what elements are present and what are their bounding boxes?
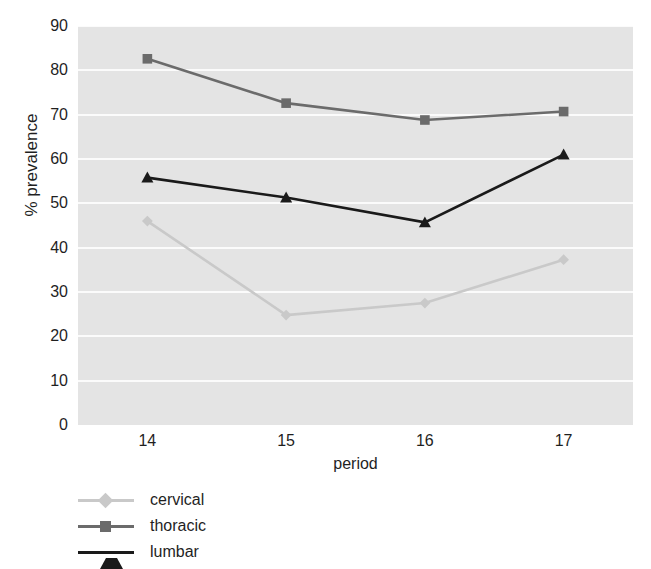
legend-label: lumbar <box>150 543 199 561</box>
series-cervical <box>142 216 569 321</box>
x-axis-tick-label: 14 <box>112 432 182 450</box>
legend-swatch-triangle-icon <box>78 544 134 560</box>
legend-item-lumbar[interactable]: lumbar <box>78 539 378 565</box>
data-point-marker <box>419 298 430 309</box>
y-axis-tick-label: 90 <box>22 18 68 34</box>
data-point-marker <box>281 98 291 108</box>
plot-area <box>78 26 633 425</box>
series-line <box>147 155 563 223</box>
y-axis-tick-label: 80 <box>22 62 68 78</box>
series-thoracic <box>143 54 569 125</box>
series-canvas <box>78 26 633 425</box>
y-axis-tick-label: 10 <box>22 373 68 389</box>
series-lumbar <box>141 149 569 228</box>
y-axis-tick-label: 0 <box>22 417 68 433</box>
x-axis-title: period <box>78 455 633 473</box>
legend-item-thoracic[interactable]: thoracic <box>78 513 378 539</box>
data-point-marker <box>559 107 569 117</box>
legend-marker-square-icon <box>100 521 111 532</box>
y-axis-tick-label: 70 <box>22 107 68 123</box>
y-axis-tick-labels: 0102030405060708090 <box>12 0 68 563</box>
legend-swatch-square-icon <box>78 518 134 534</box>
series-line <box>147 221 563 315</box>
data-point-marker <box>558 149 570 160</box>
series-line <box>147 59 563 120</box>
y-axis-tick-label: 60 <box>22 151 68 167</box>
y-axis-tick-label: 50 <box>22 195 68 211</box>
data-point-marker <box>420 115 430 125</box>
x-axis-tick-label: 15 <box>251 432 321 450</box>
y-axis-tick-label: 20 <box>22 328 68 344</box>
legend-marker-triangle-icon <box>100 547 123 569</box>
legend-label: cervical <box>150 491 204 509</box>
legend-item-cervical[interactable]: cervical <box>78 487 378 513</box>
chart-legend: cervicalthoraciclumbar <box>78 487 378 565</box>
legend-label: thoracic <box>150 517 206 535</box>
legend-swatch-diamond-icon <box>78 492 134 508</box>
x-axis-tick-label: 16 <box>390 432 460 450</box>
y-axis-tick-label: 30 <box>22 284 68 300</box>
x-axis-tick-label: 17 <box>529 432 599 450</box>
data-point-marker <box>143 54 153 64</box>
y-axis-tick-label: 40 <box>22 240 68 256</box>
data-point-marker <box>558 254 569 265</box>
legend-marker-diamond-icon <box>98 493 114 509</box>
